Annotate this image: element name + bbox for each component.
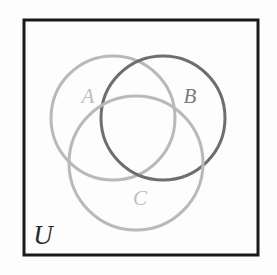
set-label-b: B bbox=[184, 84, 197, 108]
set-circle-b bbox=[101, 56, 225, 180]
universe-label: U bbox=[33, 220, 54, 250]
venn-diagram-figure: A B C U bbox=[0, 0, 277, 275]
set-label-c: C bbox=[133, 186, 148, 210]
venn-diagram-canvas: A B C U bbox=[0, 0, 277, 275]
set-circle-c bbox=[69, 96, 203, 230]
set-label-a: A bbox=[80, 84, 95, 108]
